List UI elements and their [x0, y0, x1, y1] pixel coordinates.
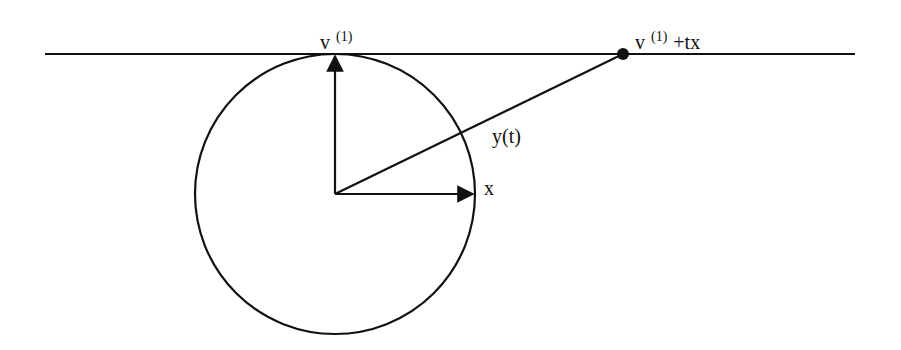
label-point-suffix: +tx	[673, 31, 700, 53]
label-x: x	[484, 178, 494, 198]
diagram-canvas: v(1) v(1)+tx y(t) x	[0, 0, 901, 350]
label-v1-superscript: (1)	[336, 29, 352, 44]
label-y-t: y(t)	[492, 126, 521, 146]
diagram-svg	[0, 0, 901, 350]
label-point-superscript: (1)	[651, 29, 667, 44]
label-v1-plus-tx: v(1)+tx	[635, 32, 700, 52]
label-v1: v(1)	[320, 32, 352, 52]
segment-y-t	[335, 54, 623, 194]
label-point-base: v	[635, 31, 645, 53]
point-v1-plus-tx	[617, 48, 629, 60]
label-v1-base: v	[320, 31, 330, 53]
